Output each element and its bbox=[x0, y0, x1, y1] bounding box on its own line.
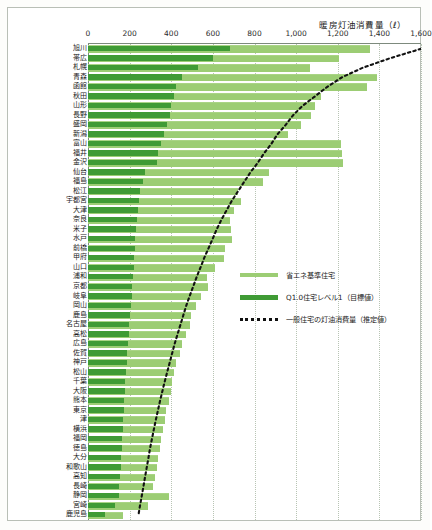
row-label-広島: 広島 bbox=[41, 339, 87, 349]
bar-q1-level1 bbox=[88, 131, 164, 136]
bar-q1-level1 bbox=[88, 493, 119, 498]
bar-q1-level1 bbox=[88, 369, 126, 374]
row-label-鹿児島: 鹿児島 bbox=[41, 510, 87, 520]
bar-q1-level1 bbox=[88, 503, 115, 508]
bar-row: 新潟 bbox=[88, 130, 421, 140]
bar-q1-level1 bbox=[88, 198, 139, 203]
bar-row: 山形 bbox=[88, 101, 421, 111]
bar-row: 仙台 bbox=[88, 168, 421, 178]
row-label-奈良: 奈良 bbox=[41, 215, 87, 225]
gridline-1600 bbox=[421, 44, 422, 520]
bar-row: 甲府 bbox=[88, 253, 421, 263]
bar-row: 徳島 bbox=[88, 444, 421, 454]
bar-q1-level1 bbox=[88, 484, 119, 489]
x-tick-label: 800 bbox=[247, 29, 261, 38]
row-label-福岡: 福岡 bbox=[41, 434, 87, 444]
bar-q1-level1 bbox=[88, 226, 136, 231]
row-label-旭川: 旭川 bbox=[41, 44, 87, 54]
bar-row: 熊本 bbox=[88, 396, 421, 406]
legend-label: Q1.0住宅レベル1（目標値） bbox=[286, 292, 378, 302]
row-label-佐賀: 佐賀 bbox=[41, 349, 87, 359]
bar-q1-level1 bbox=[88, 122, 167, 127]
row-label-帯広: 帯広 bbox=[41, 54, 87, 64]
bar-row: 長野 bbox=[88, 111, 421, 121]
x-tick-label: 1,600 bbox=[410, 29, 431, 38]
bar-row: 前橋 bbox=[88, 244, 421, 254]
bar-row: 奈良 bbox=[88, 215, 421, 225]
bar-row: 東京 bbox=[88, 406, 421, 416]
row-label-大阪: 大阪 bbox=[41, 387, 87, 397]
bar-q1-level1 bbox=[88, 46, 230, 51]
bar-row: 福井 bbox=[88, 149, 421, 159]
bar-q1-level1 bbox=[88, 512, 105, 517]
bar-row: 札幌 bbox=[88, 63, 421, 73]
bar-q1-level1 bbox=[88, 464, 121, 469]
bar-q1-level1 bbox=[88, 350, 127, 355]
row-label-新潟: 新潟 bbox=[41, 130, 87, 140]
bar-q1-level1 bbox=[88, 445, 122, 450]
bar-row: 横浜 bbox=[88, 425, 421, 435]
bar-q1-level1 bbox=[88, 255, 134, 260]
bar-q1-level1 bbox=[88, 360, 127, 365]
bar-q1-level1 bbox=[88, 169, 145, 174]
row-label-長崎: 長崎 bbox=[41, 482, 87, 492]
bar-q1-level1 bbox=[88, 474, 120, 479]
bar-q1-level1 bbox=[88, 150, 158, 155]
bar-row: 福岡 bbox=[88, 434, 421, 444]
bar-q1-level1 bbox=[88, 217, 137, 222]
row-label-横浜: 横浜 bbox=[41, 425, 87, 435]
bar-q1-level1 bbox=[88, 426, 123, 431]
row-label-徳島: 徳島 bbox=[41, 444, 87, 454]
bar-row: 青森 bbox=[88, 73, 421, 83]
bar-q1-level1 bbox=[88, 436, 122, 441]
bar-q1-level1 bbox=[88, 312, 130, 317]
row-label-松山: 松山 bbox=[41, 368, 87, 378]
bar-row: 帯広 bbox=[88, 54, 421, 64]
bar-row: 長崎 bbox=[88, 482, 421, 492]
bar-row: 宮崎 bbox=[88, 501, 421, 511]
row-label-大分: 大分 bbox=[41, 453, 87, 463]
bar-q1-level1 bbox=[88, 417, 123, 422]
row-label-大津: 大津 bbox=[41, 206, 87, 216]
bar-q1-level1 bbox=[88, 160, 157, 165]
bar-row: 宇都宮 bbox=[88, 196, 421, 206]
bar-row: 松江 bbox=[88, 187, 421, 197]
row-label-札幌: 札幌 bbox=[41, 63, 87, 73]
x-tick-label: 200 bbox=[122, 29, 136, 38]
bar-q1-level1 bbox=[88, 65, 198, 70]
row-label-岡山: 岡山 bbox=[41, 301, 87, 311]
row-label-米子: 米子 bbox=[41, 225, 87, 235]
legend-item: Q1.0住宅レベル1（目標値） bbox=[240, 292, 391, 302]
bar-q1-level1 bbox=[88, 74, 182, 79]
bar-row: 旭川 bbox=[88, 44, 421, 54]
row-label-神戸: 神戸 bbox=[41, 358, 87, 368]
bar-row: 福島 bbox=[88, 177, 421, 187]
row-label-青森: 青森 bbox=[41, 73, 87, 83]
x-tick-label: 400 bbox=[164, 29, 178, 38]
bar-q1-level1 bbox=[88, 188, 140, 193]
row-label-宇都宮: 宇都宮 bbox=[41, 196, 87, 206]
row-label-仙台: 仙台 bbox=[41, 168, 87, 178]
bar-row: 米子 bbox=[88, 225, 421, 235]
x-tick-label: 0 bbox=[86, 29, 91, 38]
row-label-名古屋: 名古屋 bbox=[41, 320, 87, 330]
bar-q1-level1 bbox=[88, 112, 170, 117]
row-label-浦和: 浦和 bbox=[41, 272, 87, 282]
bar-q1-level1 bbox=[88, 293, 132, 298]
legend-swatch bbox=[240, 318, 278, 321]
row-label-千葉: 千葉 bbox=[41, 377, 87, 387]
row-label-京都: 京都 bbox=[41, 282, 87, 292]
row-label-鹿島: 鹿島 bbox=[41, 311, 87, 321]
bar-q1-level1 bbox=[88, 55, 213, 60]
bar-row: 佐賀 bbox=[88, 349, 421, 359]
bar-row: 大分 bbox=[88, 453, 421, 463]
bar-q1-level1 bbox=[88, 398, 124, 403]
row-label-静岡: 静岡 bbox=[41, 491, 87, 501]
bar-row: 富山 bbox=[88, 139, 421, 149]
row-label-東京: 東京 bbox=[41, 406, 87, 416]
row-label-和歌山: 和歌山 bbox=[41, 463, 87, 473]
row-label-金沢: 金沢 bbox=[41, 158, 87, 168]
row-label-山形: 山形 bbox=[41, 101, 87, 111]
row-label-高知: 高知 bbox=[41, 472, 87, 482]
bar-row: 盛岡 bbox=[88, 120, 421, 130]
